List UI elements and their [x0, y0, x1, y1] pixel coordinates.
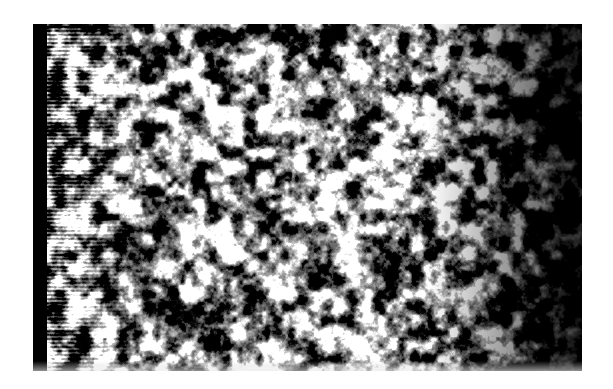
page-canvas	[0, 0, 613, 389]
black-left-edge-bar	[33, 24, 47, 371]
texture-surface	[33, 24, 582, 371]
grayscale-micrograph-plate	[33, 24, 582, 371]
